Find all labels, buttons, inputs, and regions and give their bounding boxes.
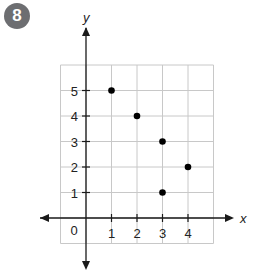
data-point [159, 189, 166, 196]
y-tick-label: 3 [71, 135, 78, 150]
y-axis-down-arrow-icon [82, 261, 90, 270]
data-point [159, 138, 166, 145]
y-tick-label: 2 [71, 160, 78, 175]
x-tick-label: 2 [133, 226, 140, 241]
data-point [185, 164, 192, 171]
data-point [108, 87, 115, 94]
x-tick-label: 3 [159, 226, 166, 241]
data-point [134, 113, 141, 120]
x-tick-label: 4 [184, 226, 191, 241]
y-tick-label: 5 [71, 84, 78, 99]
y-tick-label: 1 [71, 186, 78, 201]
origin-label: 0 [70, 223, 77, 238]
x-axis-label: x [239, 211, 247, 226]
coordinate-plane: xy1234123450 [0, 0, 261, 277]
y-axis-up-arrow-icon [82, 27, 90, 36]
x-axis-right-arrow-icon [225, 214, 234, 222]
y-tick-label: 4 [71, 109, 78, 124]
x-axis-left-arrow-icon [40, 214, 49, 222]
y-axis-label: y [82, 10, 91, 25]
x-tick-label: 1 [108, 226, 115, 241]
